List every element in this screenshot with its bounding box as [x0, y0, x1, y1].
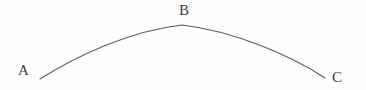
- point-label-c: C: [332, 70, 342, 85]
- point-label-a: A: [18, 63, 29, 78]
- point-label-b: B: [179, 3, 189, 18]
- arc-path: [40, 25, 325, 79]
- arc-figure: A B C: [0, 0, 366, 90]
